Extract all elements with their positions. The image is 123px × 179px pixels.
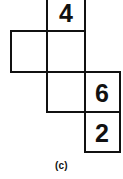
- cube-net-svg: 4 6: [0, 0, 123, 158]
- net-cell-left-outline: [11, 31, 47, 72]
- cube-net-diagram: 4 6: [0, 0, 123, 158]
- net-cell-right-lower: 2: [85, 112, 120, 152]
- net-cell-right-lower-label: 2: [95, 119, 109, 147]
- figure-caption: (c): [0, 160, 123, 171]
- net-cell-middle-lower-outline: [47, 72, 85, 112]
- figure-root: 4 6: [0, 0, 123, 179]
- net-cell-left: [11, 31, 47, 72]
- net-cell-middle-lower: [47, 72, 85, 112]
- net-cell-top: 4: [47, 0, 85, 31]
- net-cell-middle-upper: [47, 31, 85, 72]
- net-cell-top-label: 4: [59, 0, 73, 27]
- net-cell-middle-upper-outline: [47, 31, 85, 72]
- net-cell-right-upper-label: 6: [95, 79, 109, 107]
- net-cell-right-upper: 6: [85, 72, 120, 112]
